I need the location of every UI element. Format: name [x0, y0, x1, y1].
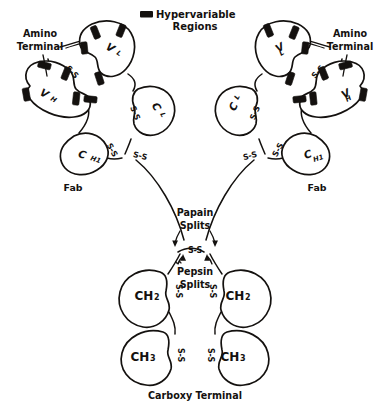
- amino-terminal-right-line1: Amino: [333, 28, 368, 39]
- hinge-sweep-right: [206, 160, 254, 240]
- ch2-ch3-linker-left: [169, 312, 175, 334]
- disulfide-ch3-right: S-S: [206, 348, 215, 363]
- disulfide-ch2-left: S-S: [174, 284, 183, 299]
- domain-sublabel-ch2-right: 2: [245, 293, 251, 302]
- papain-arrow-right-head: [212, 241, 218, 248]
- amino-terminal-left-line1: Amino: [23, 28, 58, 39]
- disulfide-hinge-outer-right: S-S: [242, 150, 258, 162]
- ch1-hinge-linker-left: [107, 158, 122, 159]
- domain-vh-left: [26, 61, 90, 117]
- fab-left-arm: V L V H C L C H1 S-S S-S S-S S-S: [22, 21, 184, 240]
- domain-sublabel-ch3-right: 3: [240, 354, 246, 363]
- hypervariable-region-swatch: [140, 11, 153, 18]
- legend-label-line1: Hypervariable: [156, 9, 236, 20]
- amino-terminal-right-line2: Terminal: [327, 41, 373, 52]
- papain-splits-line2: Splits: [180, 220, 211, 231]
- hinge-sweep-left: [136, 160, 184, 240]
- hinge-region: S-S Papain Splits Pepsin Splits: [168, 207, 222, 290]
- disulfide-hinge-outer-left: S-S: [132, 150, 148, 162]
- hv-bar-vh-left-5: [84, 95, 98, 103]
- disulfide-ch3-left: S-S: [176, 348, 185, 363]
- pepsin-splits-line2: Splits: [180, 279, 211, 290]
- domain-label-ch3-right: CH: [221, 350, 240, 364]
- domain-label-ch2-left: CH: [135, 289, 154, 303]
- legend: Hypervariable Regions: [140, 9, 236, 32]
- papain-arrow-left-head: [172, 241, 178, 248]
- domain-sublabel-ch3-left: 3: [150, 354, 156, 363]
- fab-label-right: Fab: [308, 182, 327, 193]
- cl-hinge-linker-right: [259, 139, 265, 154]
- hv-bar-vh-right-4: [309, 92, 317, 106]
- antibody-structure-figure: Hypervariable Regions V: [0, 0, 390, 410]
- ch1-hinge-linker-right: [268, 158, 283, 159]
- fc-region-ch3: CH 3 CH 3 S-S S-S: [121, 331, 269, 386]
- antibody-diagram-svg: Hypervariable Regions V: [0, 0, 390, 410]
- fab-right-arm: V L V H C L C H1 S-S S-S S-S S-S: [206, 21, 367, 240]
- domain-label-ch3-left: CH: [131, 350, 150, 364]
- amino-terminal-left-line2: Terminal: [17, 41, 63, 52]
- pepsin-splits-line1: Pepsin: [177, 266, 213, 277]
- cl-hinge-linker-left: [125, 139, 131, 154]
- hv-bar-vh-left-4: [72, 92, 80, 106]
- domain-sublabel-ch2-left: 2: [154, 293, 160, 302]
- vl-cl-linker-left: [128, 74, 135, 91]
- vl-cl-linker-right: [255, 74, 262, 91]
- domain-label-ch2-right: CH: [226, 289, 245, 303]
- ch2-ch3-linker-right: [215, 312, 221, 334]
- fab-label-left: Fab: [64, 182, 83, 193]
- carboxy-terminal-label: Carboxy Terminal: [148, 390, 242, 401]
- disulfide-ch2-right: S-S: [208, 284, 217, 299]
- domain-vh-right: [300, 61, 364, 117]
- papain-splits-line1: Papain: [177, 207, 214, 218]
- legend-label-line2: Regions: [172, 21, 217, 32]
- disulfide-hinge-center: S-S: [188, 246, 203, 255]
- hv-bar-vh-right-5: [293, 95, 307, 103]
